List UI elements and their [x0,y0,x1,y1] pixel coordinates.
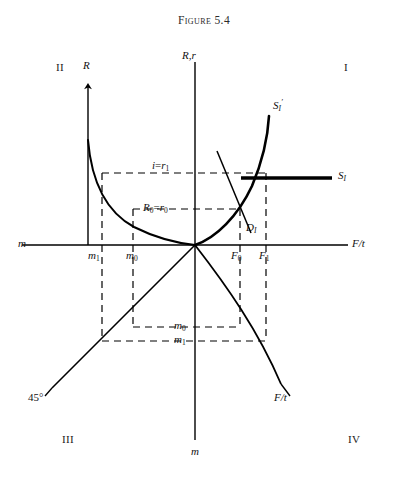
axis-label-vertical-bottom: m [191,446,199,457]
curve-label-S-I-prime: SI′ [273,100,283,111]
angle-marker-leader [45,388,52,396]
tick-label-F1: F1 [259,250,269,261]
axis-label-vertical-top: R,r [182,50,196,61]
quadrant-label-III: III [62,434,74,445]
axis-label-horizontal-left: m [18,238,26,249]
angle-marker-label: 45° [28,392,43,403]
axis-label-quadrant4-diagonal: F/t [274,392,287,403]
level-label-lower-m0: m0 [174,320,186,331]
rate-label-i-equals-r1: i=r1 [152,160,169,171]
curve-label-D-I: DI [246,222,256,233]
figure-container: Figure 5.4 [0,0,408,477]
quadrant-label-I: I [344,62,348,73]
quadrant4-transformation-curve [195,245,281,384]
quadrant-label-II: II [56,62,64,73]
rate-label-R0-equals-r0: R0=r0 [143,202,168,213]
axis-label-quadrant2-vertical: R [83,60,90,71]
quadrant2-liquidity-curve [88,140,195,245]
quadrant3-45-degree-line [52,245,195,388]
supply-curve-S-I-prime [195,116,269,245]
tick-label-F0: F0 [231,250,241,261]
tick-label-m1: m1 [88,250,100,261]
tick-label-m0: m0 [126,250,138,261]
axis-label-horizontal-right: F/t [352,238,365,249]
level-label-lower-m1: m1 [174,334,186,345]
curve-label-S-I: SI [338,170,346,181]
quadrant-label-IV: IV [348,434,360,445]
